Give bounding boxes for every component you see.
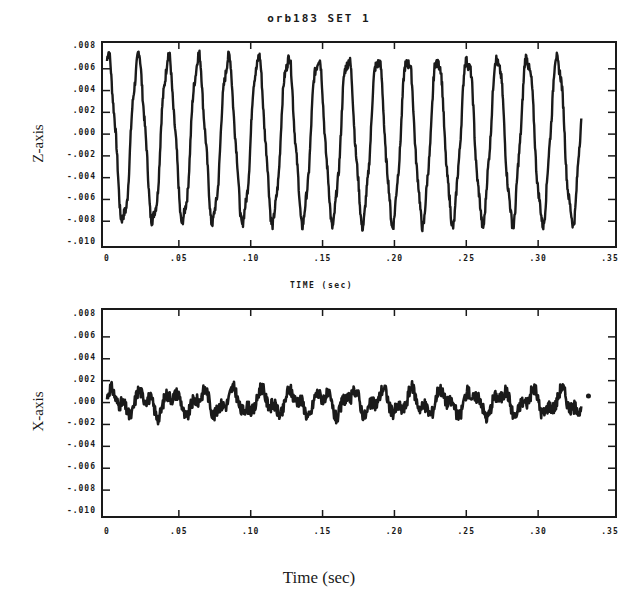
z-axis-series-line: [107, 51, 581, 231]
tick-marks: [102, 42, 616, 517]
x-axis-end-marker: [586, 393, 591, 398]
bottom-plot-frame: [102, 309, 616, 517]
plot-area: [0, 0, 638, 612]
x-axis-series-line: [107, 381, 581, 424]
top-plot-frame: [102, 42, 616, 247]
